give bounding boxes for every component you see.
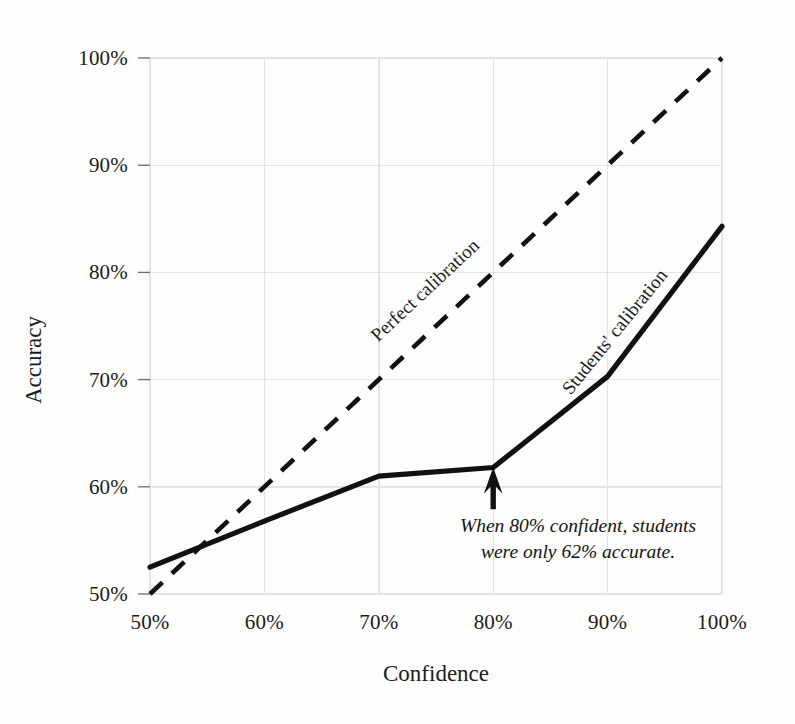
x-tick-label-70: 70% [359,610,398,635]
annotation-line-1: When 80% confident, students [428,513,728,539]
x-axis-title: Confidence [383,661,489,687]
y-tick-label-90: 90% [28,153,128,178]
annotation-callout: When 80% confident, students were only 6… [428,513,728,566]
x-tick-label-100: 100% [697,610,747,635]
y-tick-label-100: 100% [28,46,128,71]
annotation-arrow-icon [484,467,503,509]
y-tick-marks [138,58,150,594]
x-tick-label-90: 90% [588,610,627,635]
y-tick-label-50: 50% [28,582,128,607]
y-axis-title: Accuracy [21,280,47,440]
x-tick-label-50: 50% [130,610,169,635]
annotation-line-2: were only 62% accurate. [428,539,728,565]
y-tick-label-60: 60% [28,474,128,499]
calibration-chart: 100% 90% 80% 70% 60% 50% 50% 60% 70% 80%… [0,0,795,724]
x-tick-label-80: 80% [474,610,513,635]
x-tick-label-60: 60% [245,610,284,635]
